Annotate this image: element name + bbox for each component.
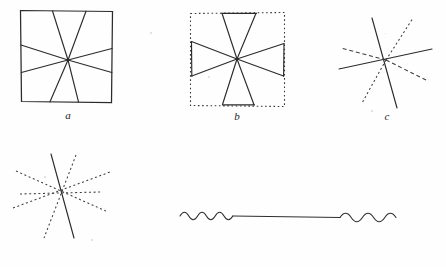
figure-c-rays xyxy=(339,18,432,108)
figure-c-caption: c xyxy=(373,111,401,122)
figure-c: c xyxy=(0,0,446,130)
figure-e-drawing xyxy=(0,130,446,267)
figure-sheet: a xyxy=(0,0,446,267)
figure-e-wavy-line xyxy=(180,212,396,222)
figure-e: e xyxy=(0,130,446,267)
